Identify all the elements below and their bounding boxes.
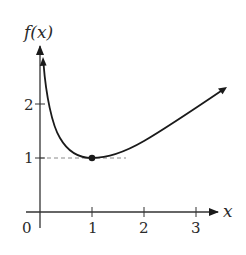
x-tick-label-3: 3 bbox=[191, 219, 201, 237]
x-tick-label-2: 2 bbox=[139, 219, 149, 237]
x-tick-label-1: 1 bbox=[88, 219, 98, 237]
origin-label: 0 bbox=[22, 219, 32, 237]
x-axis-label: x bbox=[223, 201, 233, 221]
y-tick-label-2: 2 bbox=[24, 96, 34, 114]
y-tick-label-1: 1 bbox=[24, 149, 34, 167]
function-curve bbox=[44, 65, 224, 158]
y-axis-label: f(x) bbox=[22, 22, 53, 42]
chart: f(x) x 0 1 2 3 1 2 bbox=[0, 0, 246, 255]
minimum-point bbox=[89, 155, 96, 162]
curve-arrow-left-icon bbox=[40, 57, 47, 66]
